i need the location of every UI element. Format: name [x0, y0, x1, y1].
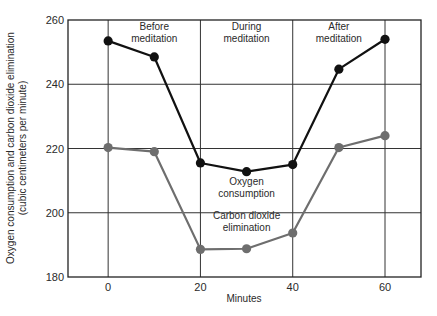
x-tick-label: 60 [379, 281, 391, 293]
data-point [196, 158, 205, 167]
data-point [380, 131, 389, 140]
y-tick-label: 240 [46, 78, 64, 90]
y-tick-labels: 180200220240260 [46, 14, 64, 283]
data-point [104, 143, 113, 152]
annotation-label: Carbon dioxideelimination [213, 210, 281, 233]
y-tick-label: 260 [46, 14, 64, 26]
y-axis-sublabel: (cubic centimeters per minute) [17, 81, 28, 216]
y-tick-label: 200 [46, 207, 64, 219]
data-point [242, 244, 251, 253]
data-point [104, 36, 113, 45]
data-point [334, 65, 343, 74]
y-tick-label: 220 [46, 143, 64, 155]
data-point [334, 143, 343, 152]
annotations: BeforemeditationDuringmeditationAftermed… [131, 21, 362, 234]
annotation-label: Beforemeditation [131, 21, 177, 44]
x-tick-label: 40 [287, 281, 299, 293]
data-point [150, 52, 159, 61]
annotation-label: Oxygenconsumption [218, 176, 275, 199]
line-chart: 180200220240260 0204060 Beforemeditation… [0, 0, 437, 316]
data-point [380, 35, 389, 44]
data-point [196, 245, 205, 254]
y-tick-label: 180 [46, 271, 64, 283]
data-point [288, 160, 297, 169]
data-point [150, 147, 159, 156]
x-tick-label: 0 [105, 281, 111, 293]
x-axis-label: Minutes [226, 293, 261, 304]
annotation-label: Aftermeditation [316, 21, 362, 44]
data-point [288, 228, 297, 237]
y-axis-label: Oxygen consumption and carbon dioxide el… [5, 32, 16, 264]
data-point [242, 167, 251, 176]
x-tick-labels: 0204060 [105, 281, 391, 293]
x-tick-label: 20 [194, 281, 206, 293]
series-oxygen-consumption [104, 35, 390, 177]
annotation-label: Duringmeditation [224, 21, 270, 44]
